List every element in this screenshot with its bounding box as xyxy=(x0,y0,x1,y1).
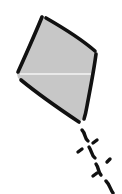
kite-icon xyxy=(0,0,122,194)
kite-tail xyxy=(78,130,113,193)
kite-illustration xyxy=(0,0,122,194)
